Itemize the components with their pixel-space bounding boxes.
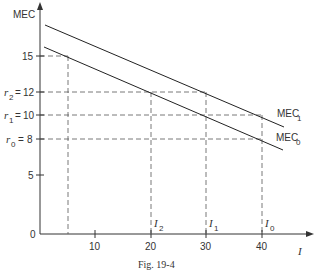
mec1-label-sub: 1 [297, 114, 302, 123]
y-tick-r1-eq: = [15, 110, 21, 121]
y-tick-5: 5 [28, 170, 34, 181]
x-tick-40: 40 [256, 241, 268, 252]
mec0-line [44, 47, 283, 150]
origin-label: 0 [30, 229, 36, 240]
mec1-line [45, 25, 284, 127]
y-tick-10: 10 [23, 110, 35, 121]
mec1-label: MEC [277, 108, 299, 119]
y-tick-r0-sub: 0 [11, 140, 16, 149]
marker-i0-sub: 0 [270, 224, 275, 233]
x-tick-10: 10 [89, 241, 101, 252]
mec0-label-sub: 0 [296, 138, 301, 147]
y-tick-8: 8 [27, 134, 33, 145]
figure-caption: Fig. 19-4 [138, 259, 175, 270]
y-tick-r1-sub: 1 [9, 116, 14, 125]
y-axis-label: MEC [13, 9, 35, 20]
marker-i2-sub: 2 [159, 224, 164, 233]
reference-lines [40, 56, 262, 234]
x-tick-20: 20 [145, 241, 157, 252]
x-tick-30: 30 [200, 241, 212, 252]
chart: MEC 15 r 2 = 12 r 1 = 10 r 0 = 8 5 0 10 … [0, 0, 314, 272]
y-tick-r2-sub: 2 [9, 93, 14, 102]
y-tick-12: 12 [23, 87, 35, 98]
marker-i1-sub: 1 [214, 224, 219, 233]
x-axis-label: I [297, 245, 303, 257]
y-tick-15: 15 [22, 51, 34, 62]
y-tick-r0-eq: = [18, 134, 24, 145]
mec0-label: MEC [276, 132, 298, 143]
y-tick-r2-eq: = [15, 87, 21, 98]
